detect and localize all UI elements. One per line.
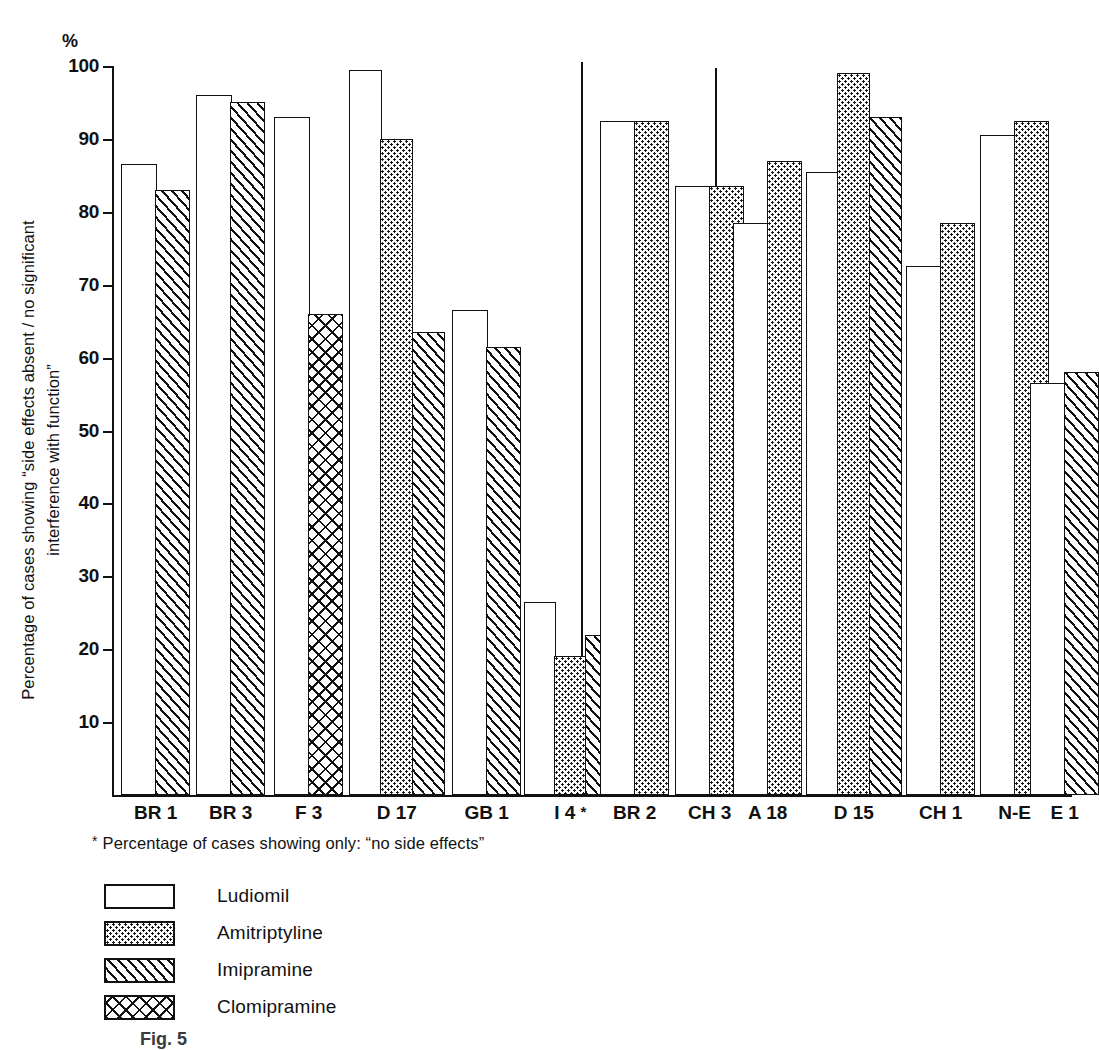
bar [940,223,976,795]
bar [230,102,266,795]
x-axis-label: CH 1 [919,802,962,824]
bar [869,117,902,795]
footnote-star-marker: * [581,803,587,820]
y-tick-mark [103,66,112,68]
x-axis-label: E 1 [1050,802,1079,824]
bar [349,70,382,795]
y-tick-label: 40 [53,492,99,514]
y-tick-mark [103,576,112,578]
bar [767,161,803,795]
bar [155,190,191,795]
x-axis-label-text: I 4 [554,802,575,823]
bar [906,266,942,795]
bar [308,314,344,795]
bar [733,223,769,795]
y-tick-label: 70 [53,274,99,296]
y-tick-mark [103,649,112,651]
legend-swatch [104,995,175,1020]
percent-unit-label: % [62,31,78,52]
x-axis-label: D 17 [377,802,417,824]
legend-label: Amitriptyline [217,922,323,944]
x-axis-label: A 18 [748,802,787,824]
x-axis-label: N-E [998,802,1031,824]
x-axis-label: F 3 [295,802,322,824]
x-axis-label: I 4 * [554,802,586,824]
bar [980,135,1016,795]
footnote-star: * [92,833,98,849]
x-axis-label: BR 3 [209,802,252,824]
y-tick-mark [103,285,112,287]
y-tick-label: 90 [53,128,99,150]
x-axis-label: D 15 [834,802,874,824]
bar [554,656,586,795]
legend-label: Clomipramine [217,996,337,1018]
bar [837,73,870,795]
legend-swatch [104,958,175,983]
x-axis-label: CH 3 [688,802,731,824]
x-axis-label: BR 1 [134,802,177,824]
y-tick-label: 80 [53,201,99,223]
y-tick-label: 20 [53,638,99,660]
y-tick-label: 60 [53,347,99,369]
bar [1064,372,1099,795]
bar [806,172,839,795]
bar [380,139,413,795]
bar [600,121,636,795]
bar [121,164,157,795]
legend-label: Ludiomil [217,885,289,907]
bar [524,602,556,795]
legend-swatch [104,921,175,946]
bar [196,95,232,795]
x-axis-baseline [112,795,1072,797]
bar [675,186,711,795]
bar [634,121,670,795]
legend-label: Imipramine [217,959,313,981]
bar [412,332,445,795]
legend-swatch [104,884,175,909]
y-tick-label: 10 [53,711,99,733]
y-tick-mark [103,503,112,505]
y-tick-mark [103,431,112,433]
y-tick-mark [103,212,112,214]
bar [1030,383,1066,795]
footnote: *Percentage of cases showing only: “no s… [92,833,484,853]
y-tick-mark [103,358,112,360]
bar [486,347,522,795]
y-tick-label: 100 [53,55,99,77]
bar [452,310,488,795]
y-axis-line [112,66,114,797]
y-tick-mark [103,139,112,141]
y-tick-label: 30 [53,565,99,587]
x-axis-label: BR 2 [613,802,656,824]
x-axis-label: GB 1 [464,802,508,824]
y-tick-mark [103,722,112,724]
y-tick-label: 50 [53,420,99,442]
figure-caption: Fig. 5 [140,1029,187,1050]
bar [274,117,310,795]
footnote-text: Percentage of cases showing only: “no si… [103,834,485,852]
y-axis-title: Percentage of cases showing “side effect… [16,130,66,790]
